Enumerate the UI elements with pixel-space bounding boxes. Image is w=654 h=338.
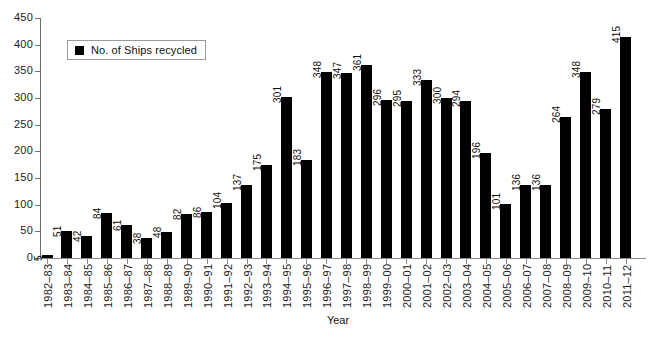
bar-value-label: 348 (572, 61, 582, 78)
bar-value-label: 51 (53, 225, 63, 237)
x-axis-category-label: 1982–83 (43, 264, 54, 308)
x-axis-category-label: 2005–06 (502, 264, 513, 308)
x-axis-category-label: 1989–90 (183, 264, 194, 308)
bar-value-label: 348 (313, 61, 323, 78)
bar (480, 153, 491, 258)
y-axis-tick-mark (35, 18, 40, 19)
x-axis-title-text: Year (305, 314, 349, 326)
y-axis-tick-mark (35, 205, 40, 206)
bar (341, 73, 352, 258)
legend-swatch-icon (75, 46, 84, 55)
bar (261, 165, 272, 258)
x-axis-category-label: 1987–88 (143, 264, 154, 308)
bar-value-label: 136 (512, 174, 522, 191)
bar-value-label: 347 (333, 62, 343, 79)
x-axis-category-label: 2007–08 (542, 264, 553, 308)
bar-value-label: 295 (393, 89, 403, 106)
bar (401, 101, 412, 258)
bar (101, 213, 112, 258)
x-axis-category-label: 2002–03 (442, 264, 453, 308)
y-axis-tick-label-wrap: 100 (0, 199, 33, 210)
y-axis-tick-label-wrap: 300 (0, 92, 33, 103)
x-axis-category-label: 2010–11 (602, 265, 613, 308)
bar (381, 100, 392, 258)
bar (520, 185, 531, 258)
x-axis-category-label: 1993–94 (262, 264, 273, 308)
x-axis-category-label: 1984–85 (83, 264, 94, 308)
bar-value-label: 86 (193, 207, 203, 219)
x-axis-category-label: 2009–10 (582, 264, 593, 308)
x-axis-category-label: 2004–05 (482, 264, 493, 308)
y-axis-tick-mark (35, 45, 40, 46)
x-axis-category-label: 1997–98 (342, 264, 353, 308)
y-axis-tick-label: 50 (3, 225, 33, 236)
x-axis-category-label: 2011–12 (622, 265, 633, 308)
x-axis-category-label: 2003–04 (462, 264, 473, 308)
bar-value-label: 264 (552, 106, 562, 123)
x-axis-category-label: 2008–09 (562, 264, 573, 308)
bar-value-label: 361 (353, 54, 363, 71)
bar-value-label: 104 (213, 191, 223, 208)
x-axis-tick-mark (626, 259, 627, 264)
x-axis-category-label: 1999–00 (382, 264, 393, 308)
bar-value-label: 82 (173, 209, 183, 221)
y-axis-tick-label-wrap: 0 (0, 252, 33, 263)
y-axis-line (40, 18, 41, 259)
bar (620, 37, 631, 258)
bar-value-label: 38 (133, 232, 143, 244)
bar-value-label: 279 (592, 98, 602, 115)
y-axis-tick-label-wrap: 150 (0, 172, 33, 183)
bar-value-label: 137 (233, 174, 243, 191)
bar-value-label: 196 (472, 142, 482, 159)
bar (500, 204, 511, 258)
bar (301, 160, 312, 258)
x-axis-line (40, 258, 646, 259)
bar-value-label: 136 (532, 174, 542, 191)
bar (361, 65, 372, 258)
y-axis-tick-label: 150 (3, 172, 33, 183)
bar (421, 80, 432, 258)
y-axis-tick-label: 400 (3, 39, 33, 50)
bar (540, 185, 551, 258)
y-axis-tick-mark (35, 151, 40, 152)
x-axis-category-label: 1992–93 (243, 264, 254, 308)
x-axis-category-label: 1998–99 (362, 264, 373, 308)
bar (560, 117, 571, 258)
x-axis-category-label: 2000–01 (402, 264, 413, 308)
bar (281, 97, 292, 258)
bar-value-label: 301 (273, 86, 283, 103)
y-axis-tick-label: 0 (3, 252, 33, 263)
bar-value-label: 5 (34, 256, 44, 262)
x-axis-tick-mark (606, 259, 607, 264)
bar (181, 214, 192, 258)
bar-value-label: 333 (413, 69, 423, 86)
bar-value-label: 300 (433, 87, 443, 104)
x-axis-category-label: 1988–89 (163, 264, 174, 308)
bar-value-label: 296 (373, 89, 383, 106)
y-axis-tick-label-wrap: 50 (0, 225, 33, 236)
chart-legend: No. of Ships recycled (67, 40, 206, 60)
bar (321, 72, 332, 258)
x-axis-category-label: 1991–92 (223, 264, 234, 308)
x-axis-category-label: 2001–02 (422, 264, 433, 308)
bar-value-label: 61 (113, 220, 123, 232)
y-axis-tick-label-wrap: 200 (0, 145, 33, 156)
bar-value-label: 183 (293, 149, 303, 166)
y-axis-tick-label: 200 (3, 145, 33, 156)
x-axis-category-label: 2006–07 (522, 264, 533, 308)
x-axis-category-label: 1985–86 (103, 264, 114, 308)
bar-value-label: 42 (73, 230, 83, 242)
y-axis-tick-mark (35, 71, 40, 72)
bar-value-label: 294 (452, 90, 462, 107)
bar-value-label: 415 (612, 25, 622, 42)
bar (600, 109, 611, 258)
bar-value-label: 101 (492, 193, 502, 210)
y-axis-tick-label: 100 (3, 199, 33, 210)
bar (241, 185, 252, 258)
x-axis-category-label: 1995–96 (302, 264, 313, 308)
bar (221, 203, 232, 258)
bar (441, 98, 452, 258)
y-axis-tick-mark (35, 125, 40, 126)
bar (460, 101, 471, 258)
y-axis-tick-mark (35, 98, 40, 99)
